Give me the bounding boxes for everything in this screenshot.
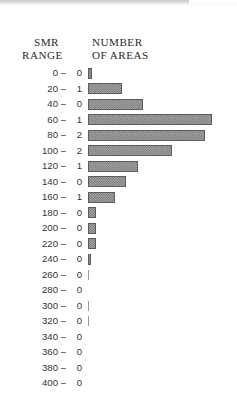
- histogram-bar: [88, 68, 92, 79]
- row-bar-area: [88, 283, 237, 299]
- row-range-label: 60 –: [0, 114, 66, 125]
- row-count-label: 0: [68, 238, 82, 249]
- row-bar-area: [88, 113, 237, 129]
- row-bar-area: [88, 237, 237, 253]
- row-count-label: 0: [68, 222, 82, 233]
- row-range-label: 380 –: [0, 362, 66, 373]
- histogram-bar: [88, 223, 96, 234]
- row-bar-area: [88, 361, 237, 377]
- histogram-row: 200 –0: [0, 221, 237, 237]
- row-count-label: 0: [68, 346, 82, 357]
- histogram-row: 180 –0: [0, 206, 237, 222]
- row-bar-area: [88, 159, 237, 175]
- row-count-label: 0: [68, 300, 82, 311]
- histogram-row: 400 –0: [0, 376, 237, 392]
- row-range-label: 200 –: [0, 222, 66, 233]
- row-range-label: 400 –: [0, 377, 66, 388]
- header-number-line1: NUMBER: [92, 36, 143, 49]
- row-count-label: 0: [68, 207, 82, 218]
- row-bar-area: [88, 376, 237, 392]
- histogram-figure: SMR RANGE NUMBER OF AREAS 0 –020 –140 –0…: [0, 0, 237, 402]
- row-bar-area: [88, 299, 237, 315]
- row-range-label: 300 –: [0, 300, 66, 311]
- row-count-label: 0: [68, 362, 82, 373]
- histogram-row: 240 –0: [0, 252, 237, 268]
- histogram-row: 0 –0: [0, 66, 237, 82]
- histogram-bar: [88, 192, 115, 203]
- row-count-label: 0: [68, 67, 82, 78]
- histogram-row: 40 –0: [0, 97, 237, 113]
- histogram-bar: [88, 161, 138, 172]
- histogram-bar: [88, 99, 143, 110]
- row-bar-area: [88, 97, 237, 113]
- row-range-label: 40 –: [0, 98, 66, 109]
- histogram-row: 220 –0: [0, 237, 237, 253]
- row-bar-area: [88, 66, 237, 82]
- histogram-bar: [88, 83, 122, 94]
- histogram-bar: [88, 270, 89, 280]
- row-count-label: 0: [68, 253, 82, 264]
- row-count-label: 0: [68, 269, 82, 280]
- row-range-label: 140 –: [0, 176, 66, 187]
- row-bar-area: [88, 221, 237, 237]
- row-count-label: 0: [68, 284, 82, 295]
- histogram-row: 360 –0: [0, 345, 237, 361]
- histogram-row: 320 –0: [0, 314, 237, 330]
- row-count-label: 0: [68, 98, 82, 109]
- row-count-label: 1: [68, 83, 82, 94]
- histogram-row: 340 –0: [0, 330, 237, 346]
- histogram-row: 160 –1: [0, 190, 237, 206]
- row-range-label: 360 –: [0, 346, 66, 357]
- header-smr-line1: SMR: [34, 36, 59, 49]
- row-range-label: 260 –: [0, 269, 66, 280]
- row-count-label: 1: [68, 114, 82, 125]
- row-bar-area: [88, 128, 237, 144]
- header-smr-line2: RANGE: [22, 49, 63, 62]
- histogram-bar: [88, 316, 89, 326]
- histogram-row: 300 –0: [0, 299, 237, 315]
- scan-edge-band-right: [189, 0, 237, 4]
- row-count-label: 0: [68, 315, 82, 326]
- row-range-label: 340 –: [0, 331, 66, 342]
- row-bar-area: [88, 252, 237, 268]
- histogram-row: 20 –1: [0, 82, 237, 98]
- row-bar-area: [88, 345, 237, 361]
- row-range-label: 280 –: [0, 284, 66, 295]
- histogram-bar: [88, 145, 172, 156]
- row-range-label: 160 –: [0, 191, 66, 202]
- row-count-label: 2: [68, 145, 82, 156]
- row-bar-area: [88, 314, 237, 330]
- row-range-label: 20 –: [0, 83, 66, 94]
- histogram-row: 380 –0: [0, 361, 237, 377]
- row-count-label: 2: [68, 129, 82, 140]
- histogram-bar: [88, 207, 96, 218]
- row-bar-area: [88, 190, 237, 206]
- row-bar-area: [88, 206, 237, 222]
- histogram-row: 140 –0: [0, 175, 237, 191]
- row-range-label: 180 –: [0, 207, 66, 218]
- row-bar-area: [88, 330, 237, 346]
- row-bar-area: [88, 268, 237, 284]
- row-range-label: 320 –: [0, 315, 66, 326]
- header-number-line2: OF AREAS: [92, 49, 149, 62]
- row-range-label: 100 –: [0, 145, 66, 156]
- row-range-label: 220 –: [0, 238, 66, 249]
- histogram-bar: [88, 114, 212, 125]
- histogram-row: 280 –0: [0, 283, 237, 299]
- histogram-bar: [88, 130, 205, 141]
- histogram-bar: [88, 238, 96, 249]
- histogram-rows: 0 –020 –140 –060 –180 –2100 –2120 –1140 …: [0, 66, 237, 392]
- histogram-row: 100 –2: [0, 144, 237, 160]
- row-bar-area: [88, 144, 237, 160]
- row-range-label: 240 –: [0, 253, 66, 264]
- histogram-bar: [88, 254, 91, 265]
- row-count-label: 0: [68, 176, 82, 187]
- row-count-label: 1: [68, 191, 82, 202]
- histogram-row: 80 –2: [0, 128, 237, 144]
- column-headers: SMR RANGE NUMBER OF AREAS: [0, 36, 237, 66]
- histogram-row: 120 –1: [0, 159, 237, 175]
- row-count-label: 1: [68, 160, 82, 171]
- row-range-label: 80 –: [0, 129, 66, 140]
- row-count-label: 0: [68, 331, 82, 342]
- histogram-row: 260 –0: [0, 268, 237, 284]
